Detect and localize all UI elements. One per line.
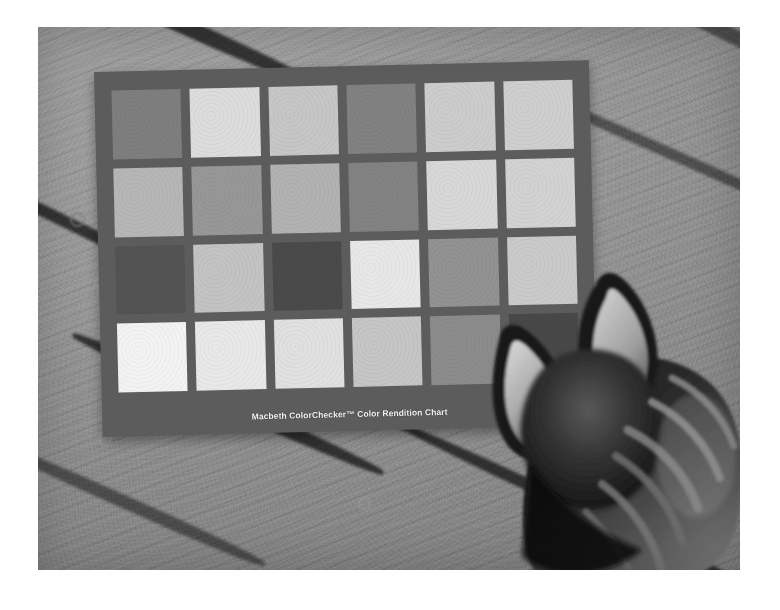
patch-grain bbox=[113, 167, 184, 237]
patch-grain bbox=[111, 89, 182, 159]
color-patch-yellow-green bbox=[427, 159, 498, 229]
patch-grain bbox=[274, 318, 345, 388]
color-patch-blue bbox=[115, 244, 186, 314]
color-patch-purplish-blue bbox=[192, 165, 263, 235]
color-patch-moderate-red bbox=[270, 163, 341, 233]
color-patch-light-skin bbox=[190, 87, 261, 157]
patch-grain bbox=[346, 83, 417, 153]
color-patch-neutral-6-5 bbox=[274, 318, 345, 388]
patch-grain bbox=[352, 317, 423, 387]
patch-grain bbox=[270, 163, 341, 233]
color-patch-green bbox=[193, 243, 264, 313]
color-patch-neutral-5 bbox=[352, 317, 423, 387]
patch-grain bbox=[193, 243, 264, 313]
patch-grain bbox=[115, 244, 186, 314]
patch-grain bbox=[195, 320, 266, 390]
cat bbox=[446, 250, 740, 570]
color-patch-yellow bbox=[350, 239, 421, 309]
color-patch-red bbox=[272, 241, 343, 311]
color-patch-foliage bbox=[346, 83, 417, 153]
patch-grain bbox=[190, 87, 261, 157]
patch-grain bbox=[350, 239, 421, 309]
patch-grain bbox=[268, 85, 339, 155]
color-patch-orange-yellow bbox=[505, 157, 576, 227]
screenshot-root: Macbeth ColorChecker™ Color Rendition Ch… bbox=[0, 0, 780, 610]
patch-grain bbox=[505, 157, 576, 227]
patch-grain bbox=[192, 165, 263, 235]
patch-grain bbox=[427, 159, 498, 229]
patch-grain bbox=[272, 241, 343, 311]
photograph: Macbeth ColorChecker™ Color Rendition Ch… bbox=[38, 27, 740, 570]
color-patch-bluish-green bbox=[503, 80, 574, 150]
color-patch-blue-flower bbox=[425, 82, 496, 152]
color-patch-blue-sky bbox=[268, 85, 339, 155]
color-patch-dark-skin bbox=[111, 89, 182, 159]
cat-highlight bbox=[656, 394, 736, 518]
patch-grain bbox=[425, 82, 496, 152]
color-patch-orange bbox=[113, 167, 184, 237]
patch-grain bbox=[348, 161, 419, 231]
patch-grain bbox=[117, 322, 188, 392]
patch-grain bbox=[503, 80, 574, 150]
color-patch-neutral-8 bbox=[195, 320, 266, 390]
color-patch-white-9-5 bbox=[117, 322, 188, 392]
color-patch-purple bbox=[348, 161, 419, 231]
